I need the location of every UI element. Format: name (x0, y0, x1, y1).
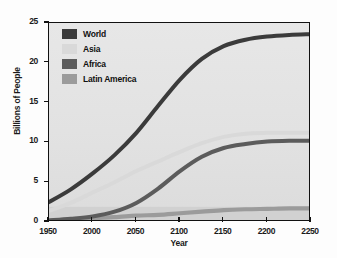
legend-item-world[interactable]: World (62, 26, 136, 41)
x-tick-mark (178, 217, 179, 222)
legend-item-africa[interactable]: Africa (62, 56, 136, 71)
x-tick-mark (135, 217, 136, 222)
y-tick-mark (44, 101, 49, 102)
chart-legend: WorldAsiaAfricaLatin America (62, 26, 136, 86)
y-tick-mark (44, 61, 49, 62)
legend-item-latin-america[interactable]: Latin America (62, 71, 136, 86)
x-tick-label: 2100 (159, 226, 199, 236)
x-tick-label: 1950 (28, 226, 68, 236)
x-tick-mark (91, 217, 92, 222)
y-tick-label: 5 (12, 175, 38, 185)
x-tick-mark (47, 217, 48, 222)
y-tick-mark (44, 141, 49, 142)
legend-item-label: Asia (83, 44, 100, 54)
y-tick-label: 0 (12, 215, 38, 225)
x-tick-label: 2000 (72, 226, 112, 236)
x-tick-label: 2150 (203, 226, 243, 236)
y-tick-label: 10 (12, 135, 38, 145)
legend-swatch (62, 44, 77, 54)
legend-item-label: World (83, 29, 106, 39)
y-tick-label: 20 (12, 56, 38, 66)
y-tick-mark (44, 21, 49, 22)
legend-item-label: Latin America (83, 74, 136, 84)
x-tick-mark (309, 217, 310, 222)
legend-swatch (62, 74, 77, 84)
legend-swatch (62, 59, 77, 69)
y-tick-label: 15 (12, 96, 38, 106)
chart-figure: Billions of People 0510152025 1950200020… (0, 0, 337, 258)
y-tick-label: 25 (12, 16, 38, 26)
y-tick-mark (44, 181, 49, 182)
x-tick-label: 2200 (246, 226, 286, 236)
legend-item-asia[interactable]: Asia (62, 41, 136, 56)
legend-item-label: Africa (83, 59, 106, 69)
x-tick-label: 2250 (290, 226, 330, 236)
x-tick-mark (266, 217, 267, 222)
x-tick-mark (222, 217, 223, 222)
x-tick-label: 2050 (115, 226, 155, 236)
x-axis-title: Year (48, 238, 310, 248)
legend-swatch (62, 29, 77, 39)
